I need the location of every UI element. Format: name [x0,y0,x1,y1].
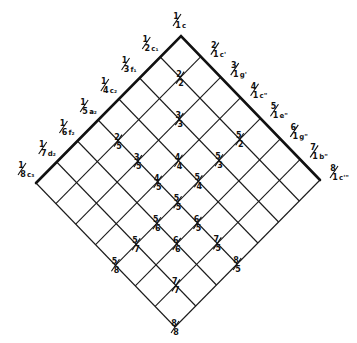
fraction-numerator: 5 [153,215,159,224]
right-edge-labels: 21c'31g'41c"51e"61g"71b"81c'" [211,41,349,182]
fraction-numerator: 6 [173,236,179,245]
grid-line [96,98,241,245]
grid-line [135,139,280,286]
fraction-denominator: 8 [114,266,120,275]
node-label: 85 [233,256,241,274]
right-edge-label: 21c' [211,41,226,59]
fraction-denominator: 1 [332,173,338,182]
fraction-denominator: 1 [312,152,318,161]
note-name: g' [240,71,247,79]
node-label: 22 [176,70,184,88]
fraction-numerator: 8 [171,319,177,328]
note-name: f₁ [131,66,137,74]
node-label: 56 [153,215,161,233]
fraction-numerator: 5 [132,236,138,245]
node-label: 33 [175,111,183,129]
left-edge-labels: 11c12c₁13f₁14c₂15a̵₂16f₂17d₂18c₃ [18,12,186,179]
fraction-numerator: 1 [18,161,24,170]
note-name: c" [260,92,268,100]
right-edge-label: 61g" [290,123,308,141]
node-label: 57 [132,236,140,254]
fraction-numerator: 3 [175,111,181,120]
note-name: f₂ [68,129,74,137]
fraction-denominator: 5 [82,107,88,116]
node-label: 44 [174,153,182,171]
fraction-denominator: 6 [62,128,68,137]
fraction-numerator: 1 [122,56,128,65]
fraction-denominator: 6 [155,224,161,233]
node-label: 75 [213,235,221,253]
right-edge-label: 41c" [251,82,268,100]
fraction-denominator: 4 [103,86,109,95]
node-label: 53 [215,152,223,170]
grid-line [76,77,221,224]
note-name: c₂ [110,87,117,95]
left-edge-label: 11c [173,12,186,30]
harmonic-lattice-diagram: 11c12c₁13f₁14c₂15a̵₂16f₂17d₂18c₃ 21c'31g… [0,0,357,343]
fraction-denominator: 1 [233,70,239,79]
note-name: c'" [339,174,349,182]
node-label: 77 [172,277,180,295]
left-edge-label: 12c₁ [142,35,158,53]
fraction-numerator: 1 [39,140,45,149]
fraction-numerator: 5 [271,102,277,111]
fraction-denominator: 3 [177,120,183,129]
note-name: c' [220,51,226,59]
fraction-numerator: 1 [80,98,86,107]
fraction-denominator: 6 [175,245,181,254]
node-ratio-labels: 22334455667788253545657585525354565758 [111,70,243,337]
left-edge-label: 13f₁ [122,56,137,74]
fraction-numerator: 4 [251,82,257,91]
node-label: 52 [236,131,244,149]
note-name: g" [299,133,308,141]
fraction-denominator: 1 [292,132,298,141]
fraction-numerator: 3 [231,61,237,70]
fraction-denominator: 1 [175,21,181,30]
right-edge-label: 81c'" [330,164,349,182]
fraction-numerator: 5 [215,152,221,161]
fraction-denominator: 3 [217,161,223,170]
fraction-denominator: 4 [196,182,202,191]
note-name: b" [319,153,328,161]
note-name: c₁ [151,45,158,53]
node-label: 25 [114,133,122,151]
fraction-denominator: 3 [124,65,130,74]
fraction-denominator: 7 [174,286,180,295]
fraction-denominator: 8 [20,170,26,179]
node-label: 65 [193,215,201,233]
fraction-denominator: 5 [235,265,241,274]
fraction-denominator: 7 [41,149,47,158]
fraction-denominator: 2 [238,140,244,149]
node-label: 55 [174,194,182,212]
fraction-denominator: 8 [173,328,179,337]
fraction-numerator: 5 [174,194,180,203]
note-name: a̵₂ [89,108,97,116]
note-name: d₂ [48,150,56,158]
note-name: e" [279,112,287,120]
fraction-numerator: 5 [236,131,242,140]
note-name: c [182,22,186,30]
fraction-numerator: 5 [112,257,118,266]
fraction-numerator: 7 [310,143,316,152]
note-name: c₃ [27,171,34,179]
grid-line [77,141,216,285]
node-label: 58 [111,257,119,275]
node-label: 35 [134,153,142,171]
fraction-numerator: 2 [114,133,120,142]
fraction-numerator: 2 [176,70,182,79]
fraction-numerator: 1 [142,35,148,44]
fraction-numerator: 6 [290,123,296,132]
fraction-numerator: 1 [173,12,179,21]
left-edge-label: 16f₂ [59,119,74,137]
left-edge-label: 15a̵₂ [80,98,97,116]
left-edge-label: 17d₂ [39,140,56,158]
fraction-denominator: 2 [144,44,150,53]
grid-line [36,183,175,327]
fraction-denominator: 1 [213,50,219,59]
fraction-numerator: 4 [175,153,181,162]
left-edge-label: 14c₂ [101,77,117,95]
right-edge-label: 71b" [310,143,328,161]
fraction-denominator: 2 [178,79,184,88]
fraction-denominator: 5 [176,203,182,212]
left-edge-label: 18c₃ [18,161,34,179]
